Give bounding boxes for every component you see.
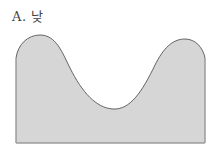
- terrain-profile-diagram: [0, 0, 220, 155]
- profile-shape: [16, 35, 205, 143]
